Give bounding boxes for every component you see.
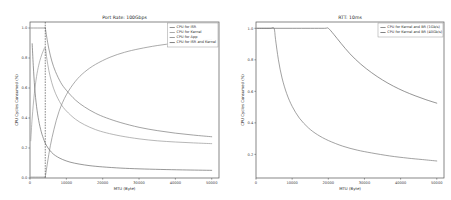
right-series-group xyxy=(257,27,437,160)
left-x-tick-group: 01000020000300004000050000 xyxy=(29,178,218,185)
y-tick-label: 0.6 xyxy=(21,86,27,90)
x-tick-label: 20000 xyxy=(323,181,335,185)
legend-label-1[interactable]: CPU for Kernel xyxy=(176,30,201,34)
chart-panel-rtt: 01000020000300004000050000 0.20.40.60.81… xyxy=(226,0,451,200)
y-tick-label: 0.2 xyxy=(247,153,253,157)
left-y-axis-label: CPU Cycles Consumed (%) xyxy=(14,74,19,126)
legend-label-3[interactable]: CPU for ISR and Kernel xyxy=(176,40,216,44)
x-tick-label: 20000 xyxy=(97,181,109,185)
y-tick-label: 0.8 xyxy=(247,58,253,62)
x-tick-label: 30000 xyxy=(359,181,371,185)
left-legend[interactable]: CPU for ISRCPU for KernelCPU for AppCPU … xyxy=(167,23,218,47)
x-tick-label: 50000 xyxy=(206,181,218,185)
legend-label-0[interactable]: CPU for Kernel and BR (1Gb/s) xyxy=(387,25,440,29)
left-chart-svg: 01000020000300004000050000 0.00.20.40.60… xyxy=(0,0,226,200)
x-tick-label: 40000 xyxy=(395,181,407,185)
series-line-1 xyxy=(257,28,437,103)
left-x-axis-label: MTU (Byte) xyxy=(114,186,136,191)
x-tick-label: 0 xyxy=(255,181,258,185)
right-y-tick-group: 0.20.40.60.81.0 xyxy=(247,27,256,157)
left-series-group xyxy=(31,27,212,178)
legend-label-0[interactable]: CPU for ISR xyxy=(176,25,196,29)
legend-label-1[interactable]: CPU for Kernel and BR (40Gb/s) xyxy=(387,30,443,34)
y-tick-label: 0.0 xyxy=(21,176,27,180)
x-tick-label: 10000 xyxy=(61,181,73,185)
right-legend[interactable]: CPU for Kernel and BR (1Gb/s)CPU for Ker… xyxy=(378,23,443,37)
left-chart-title: Port Rate: 100Gbps xyxy=(102,15,147,20)
right-y-axis-label: CPU Cycles Consumed (%) xyxy=(240,74,245,126)
chart-panel-port-rate: 01000020000300004000050000 0.00.20.40.60… xyxy=(0,0,226,200)
right-x-tick-group: 01000020000300004000050000 xyxy=(255,178,443,185)
y-tick-label: 1.0 xyxy=(21,26,27,30)
series-line-0 xyxy=(257,27,437,160)
y-tick-label: 0.4 xyxy=(247,121,253,125)
x-tick-label: 30000 xyxy=(133,181,145,185)
right-chart-svg: 01000020000300004000050000 0.20.40.60.81… xyxy=(226,0,451,200)
figure-canvas: 01000020000300004000050000 0.00.20.40.60… xyxy=(0,0,451,200)
y-tick-label: 0.8 xyxy=(21,56,27,60)
legend-label-2[interactable]: CPU for App xyxy=(176,35,198,39)
x-tick-label: 40000 xyxy=(170,181,182,185)
x-tick-label: 50000 xyxy=(431,181,443,185)
x-tick-label: 0 xyxy=(29,181,32,185)
y-tick-label: 1.0 xyxy=(247,27,253,31)
series-line-1 xyxy=(31,48,212,144)
y-tick-label: 0.4 xyxy=(21,116,27,120)
series-line-3 xyxy=(32,44,212,171)
y-tick-label: 0.6 xyxy=(247,90,253,94)
right-chart-title: RTT: 10ms xyxy=(338,15,362,20)
right-plot-area: 01000020000300004000050000 0.20.40.60.81… xyxy=(247,22,444,185)
right-x-axis-label: MTU (Byte) xyxy=(339,186,361,191)
right-axes-frame xyxy=(256,22,444,178)
left-y-tick-group: 0.00.20.40.60.81.0 xyxy=(21,26,30,180)
x-tick-label: 10000 xyxy=(286,181,298,185)
y-tick-label: 0.2 xyxy=(21,146,27,150)
